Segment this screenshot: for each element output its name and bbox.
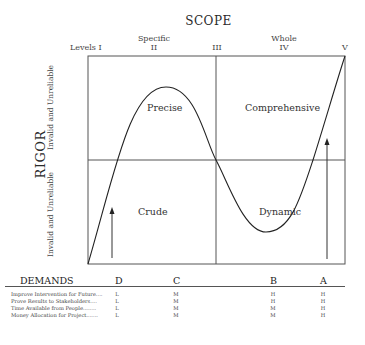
demand-row-c: M xyxy=(171,298,181,304)
demand-row-label: Money Allocation for Project....... xyxy=(11,312,98,318)
demands-divider xyxy=(5,286,345,287)
demand-row-a: H xyxy=(318,298,328,304)
demand-row-label: Time Available from People........ xyxy=(11,305,96,311)
demands-col-c: C xyxy=(173,275,180,286)
left-up-arrow xyxy=(110,207,115,258)
quadrant-crude-label: Crude xyxy=(138,206,168,217)
right-up-arrow xyxy=(325,138,330,259)
quadrant-comprehensive-label: Comprehensive xyxy=(245,102,320,113)
quadrant-precise-label: Precise xyxy=(147,102,182,113)
demand-row-d: L xyxy=(112,298,122,304)
demand-row-c: M xyxy=(171,305,181,311)
demand-row-b: H xyxy=(268,298,278,304)
demand-row-b: M xyxy=(268,305,278,311)
demand-row-c: M xyxy=(171,312,181,318)
demand-row-a: H xyxy=(318,305,328,311)
demand-row-label: Improve Intervention for Future.... xyxy=(11,291,102,297)
demands-header: DEMANDS xyxy=(20,275,74,286)
demands-col-b: B xyxy=(270,275,277,286)
demand-row-c: M xyxy=(171,291,181,297)
demand-row-a: H xyxy=(318,291,328,297)
demand-row-b: H xyxy=(268,291,278,297)
demand-row-b: M xyxy=(268,312,278,318)
demand-row-label: Prove Results to Stakeholders.... xyxy=(11,298,97,304)
demand-row-d: L xyxy=(112,305,122,311)
quadrant-dynamic-label: Dynamic xyxy=(259,206,301,217)
demand-row-d: L xyxy=(112,312,122,318)
demands-col-a: A xyxy=(320,275,327,286)
demand-row-d: L xyxy=(112,291,122,297)
demand-row-a: H xyxy=(318,312,328,318)
demands-col-d: D xyxy=(115,275,123,286)
